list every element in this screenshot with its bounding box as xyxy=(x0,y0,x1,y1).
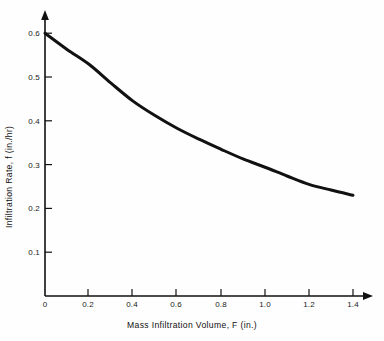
x-tick-label: 1.0 xyxy=(259,300,271,309)
x-tick-label: 0.4 xyxy=(126,300,138,309)
infiltration-rate-chart: 0 0.2 0.4 0.6 0.8 1.0 1.2 1.4 0.1 0.2 0.… xyxy=(0,0,384,341)
y-tick-label: 0.1 xyxy=(22,248,40,257)
x-tick-label: 0.6 xyxy=(170,300,182,309)
x-tick-label: 0.8 xyxy=(215,300,227,309)
y-axis-arrow-icon xyxy=(41,10,49,20)
plot-area xyxy=(0,0,384,341)
x-tick-label: 0 xyxy=(43,300,48,309)
x-tick-marks xyxy=(88,289,353,296)
y-tick-label: 0.5 xyxy=(22,73,40,82)
y-tick-marks xyxy=(45,33,52,252)
x-tick-label: 0.2 xyxy=(82,300,94,309)
x-axis-title: Mass Infiltration Volume, F (in.) xyxy=(0,320,384,330)
y-tick-label: 0.2 xyxy=(22,204,40,213)
y-tick-label: 0.4 xyxy=(22,116,40,125)
x-tick-label: 1.2 xyxy=(303,300,315,309)
y-tick-label: 0.6 xyxy=(22,29,40,38)
y-axis-title: Infiltration Rate, f (in./hr) xyxy=(4,214,14,228)
x-axis-arrow-icon xyxy=(363,292,373,300)
y-tick-label: 0.3 xyxy=(22,160,40,169)
data-series-line xyxy=(45,33,353,195)
axes-group xyxy=(41,10,373,300)
x-tick-label: 1.4 xyxy=(347,300,359,309)
